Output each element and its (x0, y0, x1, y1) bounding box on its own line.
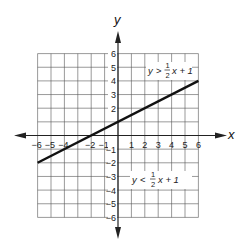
x-tick-label: 5 (182, 140, 187, 150)
y-tick-label: −4 (106, 186, 116, 196)
coordinate-plane: −6−5−4−2−112345665432−1−2−3−4−5−6 x y y … (0, 0, 248, 246)
ineq-op: < (140, 174, 146, 185)
upper-inequality-label: y > 1 2 x + 1 (146, 61, 193, 80)
y-tick-label: −5 (106, 199, 116, 209)
x-tick-label: −6 (31, 140, 41, 150)
x-tick-label: 6 (196, 140, 201, 150)
y-tick-label: 6 (111, 49, 116, 59)
y-tick-label: −1 (106, 145, 116, 155)
arrow-down-icon (115, 227, 121, 239)
ineq-rhs: x + 1 (171, 65, 193, 76)
x-tick-label: 3 (156, 140, 161, 150)
lower-inequality-label: y < 1 2 x + 1 (130, 170, 192, 189)
y-tick-label: 5 (111, 63, 116, 73)
frac-den: 2 (166, 71, 170, 80)
x-tick-label: −2 (85, 140, 95, 150)
x-tick-label: 2 (142, 140, 147, 150)
arrow-left-icon (14, 133, 26, 139)
y-tick-label: −2 (106, 158, 116, 168)
arrow-up-icon (115, 31, 121, 43)
y-tick-label: 4 (111, 76, 116, 86)
arrow-right-icon (215, 133, 227, 139)
ineq-op: > (156, 65, 162, 76)
x-tick-label: 4 (169, 140, 174, 150)
axes (14, 31, 227, 239)
x-axis-label: x (227, 127, 235, 142)
y-tick-label: −6 (106, 213, 116, 223)
y-axis-label: y (113, 12, 122, 27)
frac-den: 2 (151, 180, 155, 189)
x-tick-label: 1 (129, 140, 134, 150)
y-tick-label: −3 (106, 172, 116, 182)
ineq-rhs: x + 1 (157, 174, 179, 185)
y-tick-label: 2 (111, 104, 116, 114)
y-tick-label: 3 (111, 90, 116, 100)
frac-num: 1 (151, 170, 155, 179)
x-tick-label: −5 (45, 140, 55, 150)
frac-num: 1 (166, 61, 170, 70)
